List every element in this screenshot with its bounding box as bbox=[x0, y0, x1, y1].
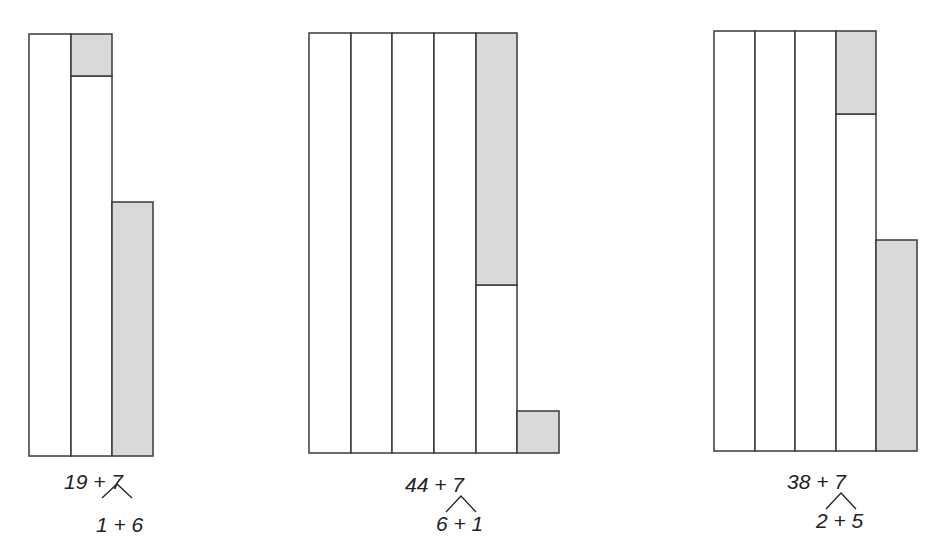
expression-label: 38 + 7 bbox=[787, 470, 846, 494]
split-label: 1 + 6 bbox=[96, 513, 143, 537]
partial-column bbox=[476, 285, 517, 453]
fill-units-block bbox=[71, 34, 112, 76]
partial-column bbox=[71, 76, 112, 456]
partial-column bbox=[836, 114, 876, 451]
ten-column bbox=[351, 33, 392, 453]
ten-column bbox=[309, 33, 351, 453]
split-label: 6 + 1 bbox=[436, 512, 483, 536]
diagram-19-plus-7 bbox=[29, 34, 153, 456]
leftover-units-block bbox=[517, 411, 559, 453]
ten-column bbox=[795, 31, 836, 451]
split-branch-icon bbox=[446, 496, 476, 512]
expression-label: 44 + 7 bbox=[405, 473, 464, 497]
ten-column bbox=[392, 33, 434, 453]
leftover-units-block bbox=[876, 240, 917, 451]
split-label: 2 + 5 bbox=[816, 509, 863, 533]
expression-label: 19 + 7 bbox=[64, 470, 123, 494]
split-branch-icon bbox=[826, 493, 856, 509]
fill-units-block bbox=[836, 31, 876, 114]
ten-column bbox=[714, 31, 755, 451]
leftover-units-block bbox=[112, 202, 153, 456]
diagram-44-plus-7 bbox=[309, 33, 559, 453]
fill-units-block bbox=[476, 33, 517, 285]
ten-column bbox=[434, 33, 476, 453]
ten-column bbox=[29, 34, 71, 456]
diagram-38-plus-7 bbox=[714, 31, 917, 451]
ten-column bbox=[755, 31, 795, 451]
